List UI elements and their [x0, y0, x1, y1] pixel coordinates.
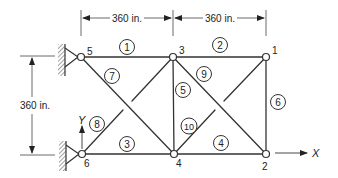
svg-text:2: 2: [217, 40, 223, 51]
top-dimension: [81, 10, 266, 36]
member-label-10: 10: [181, 118, 197, 134]
svg-text:5: 5: [180, 85, 186, 96]
pin-support-icon: [66, 145, 79, 164]
svg-text:7: 7: [109, 71, 115, 82]
member-label-7: 7: [105, 69, 120, 84]
svg-text:6: 6: [275, 97, 281, 108]
node-label-5: 5: [87, 46, 93, 57]
node-2: [263, 151, 270, 158]
truss-diagram: 360 in. 360 in. 360 in.: [0, 0, 338, 178]
pin-support-icon: [65, 48, 78, 67]
member-label-2: 2: [213, 38, 228, 53]
support-node5: [58, 44, 78, 76]
member-label-9: 9: [197, 67, 212, 82]
node-label-2: 2: [262, 161, 268, 172]
member-10-upper: [224, 57, 266, 101]
wall-hatch-icon: [59, 141, 66, 171]
svg-text:8: 8: [94, 119, 100, 130]
node-label-1: 1: [272, 45, 278, 56]
node-1: [263, 54, 270, 61]
svg-text:10: 10: [184, 122, 194, 132]
svg-text:9: 9: [201, 69, 207, 80]
wall-hatch-icon: [58, 44, 65, 76]
member-labels: 1 2 3 4 5 6 7 8: [90, 38, 286, 152]
node-label-4: 4: [176, 158, 182, 169]
node-label-3: 3: [179, 45, 185, 56]
dimension-label-left-height: 360 in.: [20, 100, 50, 111]
member-label-3: 3: [120, 137, 135, 152]
y-axis-label: Y: [78, 114, 86, 126]
member-label-1: 1: [120, 40, 135, 55]
member-5: [173, 57, 174, 154]
member-label-8: 8: [90, 117, 105, 132]
support-node6: [59, 141, 79, 171]
dimension-label-top-left: 360 in.: [112, 13, 142, 24]
member-label-6: 6: [271, 95, 286, 110]
svg-text:1: 1: [124, 42, 130, 53]
node-6: [79, 151, 86, 158]
member-8-lower: [82, 110, 123, 154]
member-8-upper: [132, 57, 173, 101]
dimension-label-top-right: 360 in.: [205, 13, 235, 24]
x-axis-label: X: [311, 147, 320, 159]
member-label-5: 5: [176, 83, 191, 98]
node-5: [78, 54, 85, 61]
member-label-4: 4: [214, 136, 229, 151]
svg-text:4: 4: [218, 138, 224, 149]
svg-text:3: 3: [124, 139, 130, 150]
node-3: [170, 54, 177, 61]
node-4: [171, 151, 178, 158]
node-label-6: 6: [84, 158, 90, 169]
